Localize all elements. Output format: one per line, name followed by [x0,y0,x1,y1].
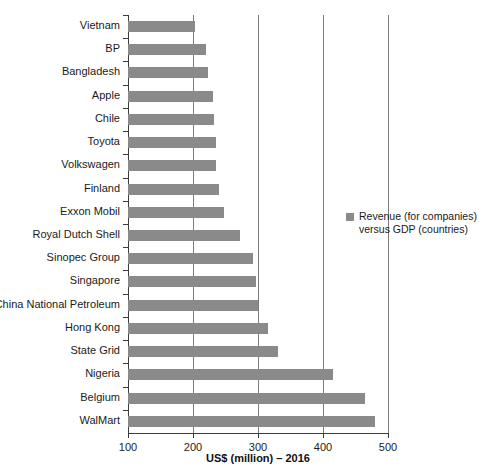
y-tick [123,387,128,388]
bar-row: WalMart [128,410,388,433]
bar [128,44,206,55]
y-tick [123,247,128,248]
y-tick [123,108,128,109]
bar-row: Chile [128,108,388,131]
category-label: Bangladesh [62,60,120,84]
category-label: China National Petroleum [0,293,120,317]
category-label: Hong Kong [65,316,120,340]
category-label: Chile [95,107,120,131]
bar-row: Singapore [128,270,388,293]
bar-row: BP [128,38,388,61]
y-tick [123,410,128,411]
bar-row: China National Petroleum [128,294,388,317]
bar-row: Finland [128,178,388,201]
bar [128,207,224,218]
y-tick [123,85,128,86]
bar-row: Vietnam [128,15,388,38]
bar-row: State Grid [128,340,388,363]
legend-swatch-icon [346,213,354,221]
x-tick-300 [258,433,259,438]
bar [128,393,365,404]
bar [128,369,333,380]
bar-chart: VietnamBPBangladeshAppleChileToyotaVolks… [0,0,479,474]
y-tick [123,131,128,132]
category-label: Sinopec Group [47,246,120,270]
category-label: Singapore [70,269,120,293]
y-tick [123,154,128,155]
category-label: Nigeria [85,362,120,386]
bar-row: Hong Kong [128,317,388,340]
bar [128,230,240,241]
x-axis-title: US$ (million) – 2016 [128,452,388,464]
bar-row: Apple [128,85,388,108]
bar-row: Volkswagen [128,154,388,177]
bar [128,21,195,32]
bar-row: Nigeria [128,363,388,386]
category-label: Vietnam [80,14,120,38]
category-label: Exxon Mobil [60,200,120,224]
y-tick [123,38,128,39]
category-label: WalMart [79,409,120,433]
bar [128,137,216,148]
category-label: Finland [84,177,120,201]
y-tick [123,224,128,225]
y-tick [123,178,128,179]
bar [128,346,278,357]
y-tick [123,201,128,202]
bar [128,114,214,125]
y-tick [123,270,128,271]
y-tick [123,340,128,341]
bar [128,184,219,195]
bar-row: Belgium [128,387,388,410]
bar [128,276,256,287]
y-tick [123,317,128,318]
category-label: Royal Dutch Shell [33,223,120,247]
category-label: Apple [92,84,120,108]
y-tick [123,294,128,295]
legend-label: Revenue (for companies) versus GDP (coun… [359,210,477,236]
x-tick-100 [128,433,129,438]
bar [128,323,268,334]
bar [128,416,375,427]
bar [128,91,213,102]
y-tick [123,363,128,364]
x-tick-500 [388,433,389,438]
x-tick-200 [193,433,194,438]
category-label: BP [105,37,120,61]
bar-row: Sinopec Group [128,247,388,270]
bar [128,300,258,311]
category-label: State Grid [70,339,120,363]
bar-row: Bangladesh [128,61,388,84]
legend-label-line2: versus GDP (countries) [359,223,468,235]
bar-row: Toyota [128,131,388,154]
category-label: Volkswagen [61,153,120,177]
legend: Revenue (for companies) versus GDP (coun… [346,210,478,236]
legend-label-line1: Revenue (for companies) [359,210,477,222]
bar [128,160,216,171]
y-tick [123,15,128,16]
y-tick [123,61,128,62]
bar [128,67,208,78]
x-tick-400 [323,433,324,438]
category-label: Toyota [88,130,120,154]
bar [128,253,253,264]
category-label: Belgium [80,386,120,410]
